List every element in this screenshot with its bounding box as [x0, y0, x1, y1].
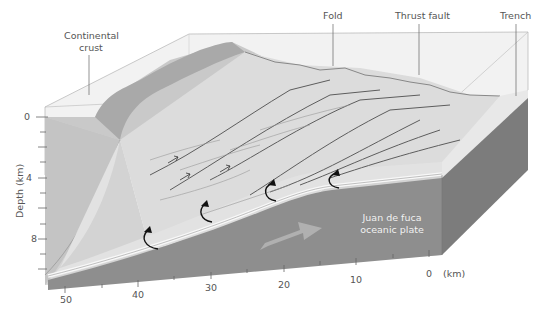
block-diagram: Continental crust Fold Thrust fault Tren… — [0, 0, 560, 316]
label-continental-crust-line1: Continental — [64, 30, 119, 41]
label-trench: Trench — [500, 10, 531, 21]
label-plate-line1: Juan de fuca — [352, 212, 432, 224]
distance-tick-50: 50 — [60, 294, 72, 305]
distance-tick-40: 40 — [132, 289, 144, 300]
label-thrust-fault: Thrust fault — [395, 10, 450, 21]
depth-tick-4: 4 — [26, 172, 32, 183]
depth-tick-0: 0 — [24, 111, 30, 122]
distance-tick-20: 20 — [278, 279, 290, 290]
distance-tick-0: 0 — [426, 268, 432, 279]
distance-tick-30: 30 — [205, 282, 217, 293]
depth-axis-title: Depth (km) — [14, 164, 25, 218]
label-continental-crust-line2: crust — [79, 42, 103, 53]
distance-axis-unit: (km) — [443, 268, 465, 279]
distance-tick-10: 10 — [350, 274, 362, 285]
label-plate-line2: oceanic plate — [352, 224, 432, 236]
depth-tick-8: 8 — [31, 233, 37, 244]
label-fold: Fold — [323, 10, 343, 21]
